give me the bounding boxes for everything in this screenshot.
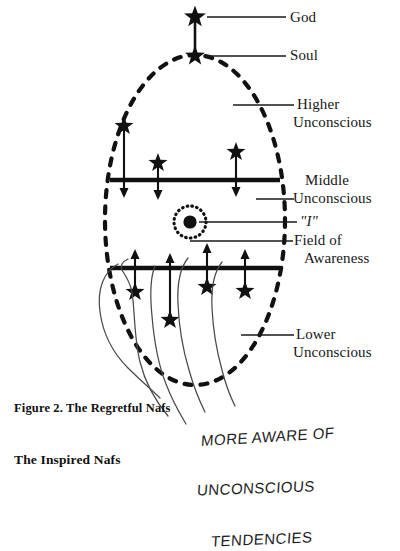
label-god: God bbox=[290, 9, 316, 26]
downward-arrow-stars bbox=[115, 116, 246, 171]
annotation-line-2: UNCONSCIOUS bbox=[196, 477, 335, 499]
downward-arrow-group bbox=[120, 128, 241, 200]
label-middle-unconscious-line2: Unconscious bbox=[293, 190, 372, 207]
label-middle-unconscious-line1: Middle bbox=[305, 172, 349, 189]
label-soul: Soul bbox=[290, 47, 318, 64]
handwritten-annotation: MORE AWARE OF UNCONSCIOUS TENDENCIES bbox=[201, 394, 335, 551]
label-higher-unconscious-line2: Unconscious bbox=[293, 114, 372, 131]
handdrawn-curve-4 bbox=[178, 258, 205, 412]
annotation-line-3: TENDENCIES bbox=[211, 527, 336, 549]
i-center-dot bbox=[183, 215, 196, 228]
label-field-of-awareness-line2: Awareness bbox=[304, 250, 369, 267]
label-lower-unconscious-line1: Lower bbox=[296, 326, 336, 343]
soul-star bbox=[185, 46, 205, 65]
label-field-of-awareness-line1: Field of bbox=[294, 232, 342, 249]
figure-caption: Figure 2. The Regretful Nafs bbox=[14, 401, 171, 416]
annotation-line-1: MORE AWARE OF bbox=[201, 424, 336, 449]
label-higher-unconscious-line1: Higher bbox=[297, 96, 339, 113]
upward-arrow-stars bbox=[126, 277, 255, 328]
next-section-heading: The Inspired Nafs bbox=[14, 452, 121, 468]
upward-arrow-group bbox=[131, 243, 250, 318]
label-i: "I" bbox=[300, 213, 318, 230]
label-lower-unconscious-line2: Unconscious bbox=[293, 344, 372, 361]
handdrawn-curve-5 bbox=[212, 262, 235, 406]
handdrawn-curve-2 bbox=[121, 259, 168, 416]
